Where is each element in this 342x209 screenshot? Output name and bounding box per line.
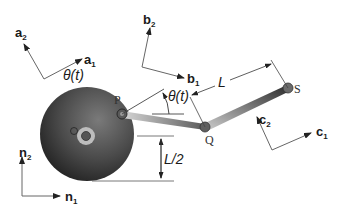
- a1-label: a1: [84, 52, 96, 69]
- c2-label: c2: [259, 112, 271, 129]
- n1-label: n1: [65, 189, 78, 206]
- c1-label: c1: [316, 124, 328, 141]
- b1-label: b1: [187, 71, 200, 88]
- frame-a: a1 a2 θ(t): [15, 25, 96, 83]
- b1-reference-line: [122, 89, 164, 114]
- frame-b: b1 b2: [142, 12, 200, 88]
- b2-label: b2: [143, 12, 156, 29]
- link-qs: [203, 85, 290, 131]
- frame-c: c1 c2: [257, 112, 328, 150]
- n2-label: n2: [19, 145, 32, 162]
- theta-b-label: θ(t): [168, 88, 189, 104]
- a2-label: a2: [15, 25, 27, 42]
- disk-axle: [82, 132, 91, 141]
- b1-arrow: [142, 67, 184, 78]
- point-s-label: S: [294, 82, 301, 96]
- theta-a-label: θ(t): [63, 67, 84, 83]
- c1-arrow: [272, 133, 311, 150]
- theta-b-angle: θ(t): [122, 88, 189, 114]
- a2-arrow: [24, 44, 44, 79]
- point-p-label: P: [114, 93, 121, 107]
- length-label: L: [218, 74, 226, 90]
- mechanism-diagram: a1 a2 θ(t) b1 b2 L/2 θ(t): [0, 0, 342, 209]
- point-q-label: Q: [205, 133, 214, 147]
- b2-arrow: [142, 28, 150, 67]
- half-length-label: L/2: [164, 151, 184, 167]
